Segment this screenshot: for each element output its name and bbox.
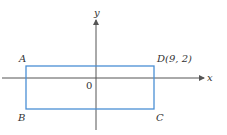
y-axis-label: y (93, 7, 100, 18)
vertex-d-label: D(9, 2) (156, 53, 192, 64)
x-axis-label: x (207, 72, 213, 83)
vertex-c-label: C (156, 112, 164, 123)
vertex-a-label: A (18, 53, 26, 64)
coordinate-diagram: y x 0 A B C D(9, 2) (0, 0, 227, 135)
vertex-b-label: B (17, 112, 25, 123)
origin-label: 0 (86, 80, 92, 91)
